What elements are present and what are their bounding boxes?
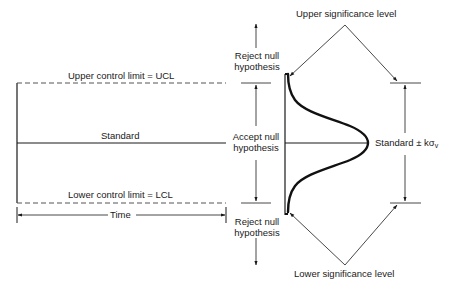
reject-upper-label: Reject null hypothesis: [232, 50, 282, 72]
ucl-label: Upper control limit = UCL: [68, 70, 174, 81]
sig-range-label: Standard ± kσv: [374, 137, 439, 151]
time-label: Time: [108, 209, 133, 220]
reject-lower-line1: Reject null: [232, 216, 282, 227]
sig-range-label-subscript: v: [435, 142, 439, 149]
lower-significance-label: Lower significance level: [294, 268, 394, 279]
accept-line2: hypothesis: [228, 142, 284, 153]
accept-label: Accept null hypothesis: [228, 131, 284, 153]
reject-lower-label: Reject null hypothesis: [232, 216, 282, 238]
sig-range-label-main: Standard ± kσ: [375, 137, 435, 148]
upper-significance-label: Upper significance level: [296, 8, 396, 19]
accept-line1: Accept null: [228, 131, 284, 142]
reject-upper-line1: Reject null: [232, 50, 282, 61]
standard-label: Standard: [101, 130, 140, 141]
lcl-label: Lower control limit = LCL: [68, 189, 173, 200]
upper-sig-pointer-right: [345, 25, 397, 81]
lower-sig-pointer-left: [290, 213, 345, 265]
upper-sig-pointer-left: [290, 25, 345, 76]
reject-lower-line2: hypothesis: [232, 227, 282, 238]
lower-sig-pointer-right: [345, 205, 397, 265]
reject-upper-line2: hypothesis: [232, 61, 282, 72]
